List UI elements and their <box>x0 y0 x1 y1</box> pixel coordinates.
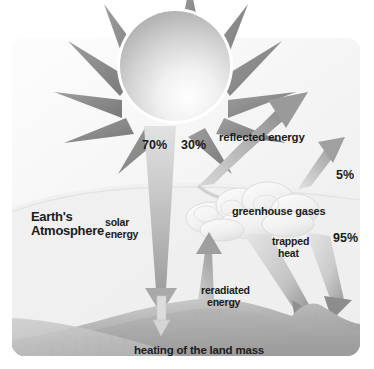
label-reflected-energy: reflected energy <box>219 131 305 144</box>
sun-disc <box>120 11 230 121</box>
label-heating-of-land-mass: heating of the land mass <box>134 344 264 357</box>
label-escaping-percent: 5% <box>336 168 354 182</box>
label-reradiated-line2: energy <box>207 297 240 309</box>
label-solar-energy-line2: energy <box>105 229 138 241</box>
label-trapped-heat-line2: heat <box>278 248 299 260</box>
greenhouse-effect-diagram: 70% 30% reflected energy 5% 95% Earth's … <box>0 0 374 369</box>
label-reflected-percent: 30% <box>181 138 206 152</box>
diagram-canvas <box>0 0 374 369</box>
label-trapped-percent: 95% <box>333 231 358 245</box>
label-earths-atmosphere-line2: Atmosphere <box>31 224 104 239</box>
label-greenhouse-gases: greenhouse gases <box>232 205 325 217</box>
label-incoming-solar-percent: 70% <box>142 138 167 152</box>
